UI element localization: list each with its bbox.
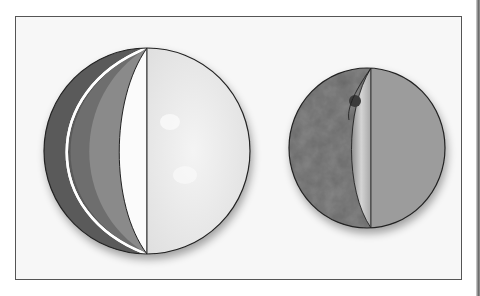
large-globe	[40, 45, 250, 257]
surface-hemisphere	[371, 68, 449, 228]
small-globe	[288, 66, 449, 230]
surface-hemisphere	[147, 48, 250, 254]
planet-cutaway-diagram	[0, 0, 480, 296]
